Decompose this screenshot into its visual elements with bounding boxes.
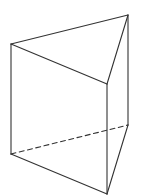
edge-top-AB bbox=[11, 15, 128, 44]
edge-bottom-EF bbox=[107, 125, 128, 194]
edge-top-CA bbox=[11, 44, 107, 84]
prism-canvas bbox=[0, 0, 145, 196]
prism-edges bbox=[11, 15, 128, 194]
edge-bottom-FD bbox=[11, 154, 107, 194]
edge-bottom-DE-hidden bbox=[11, 125, 128, 154]
triangular-prism-diagram bbox=[0, 0, 145, 196]
edge-top-BC bbox=[107, 15, 128, 84]
